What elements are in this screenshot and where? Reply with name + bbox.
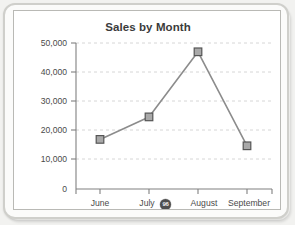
y-tick-label-20000: 20,000 [41, 125, 68, 135]
august-annotation-badge[interactable]: 96 [160, 199, 171, 210]
x-axis-ticks [100, 189, 247, 194]
y-axis-ticks [71, 43, 76, 159]
line-chart-plot: 50,000 40,000 30,000 20,000 10,000 0 Jun… [14, 11, 281, 210]
y-tick-label-10000: 10,000 [41, 154, 68, 164]
y-tick-label-40000: 40,000 [41, 67, 68, 77]
x-tick-label-august: August [191, 198, 218, 208]
x-tick-label-september: September [228, 198, 270, 208]
screenshot-root: Sales by Month 50,000 40, [0, 0, 295, 225]
data-point-august [194, 48, 202, 56]
data-point-july [145, 113, 153, 121]
series-markers-sales [96, 48, 251, 150]
data-point-june [96, 136, 104, 144]
y-tick-label-30000: 30,000 [41, 96, 68, 106]
y-tick-label-0: 0 [62, 184, 67, 194]
x-tick-label-july: July [139, 198, 155, 208]
x-tick-label-june: June [91, 198, 110, 208]
y-tick-label-50000: 50,000 [41, 38, 68, 48]
data-point-september [243, 142, 251, 150]
series-line-sales [100, 52, 247, 146]
chart-panel: Sales by Month 50,000 40, [13, 10, 281, 210]
